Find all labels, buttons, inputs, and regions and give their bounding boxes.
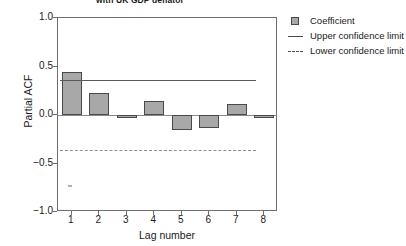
y-tick-1.0: 1.0 (8, 11, 53, 23)
plot-area (57, 17, 277, 211)
legend-item-coefficient: Coefficient (288, 14, 406, 28)
x-tick-label-7: 7 (224, 214, 248, 225)
acf-bar-lag-4 (144, 101, 164, 115)
partial-acf-chart: with UK GDP deflator Partial ACF Lag num… (0, 0, 406, 246)
x-axis-label: Lag number (57, 229, 277, 241)
y-tick-label: 0.0 (13, 108, 53, 119)
y-tick-0.0: 0.0 (8, 108, 53, 120)
y-tick-label: 1.0 (13, 11, 53, 22)
x-tick-label-6: 6 (196, 214, 220, 225)
zero-reference-line (58, 115, 276, 116)
dashed-line-icon (288, 45, 304, 57)
y-tick-label: 0.5 (13, 60, 53, 71)
x-tick-mark (126, 211, 127, 215)
x-tick-label-2: 2 (86, 214, 110, 225)
x-tick-mark (98, 211, 99, 215)
acf-bar-lag-1 (62, 72, 82, 115)
y-tick--0.5: −0.5 (8, 157, 53, 169)
chart-legend: Coefficient Upper confidence limit Lower… (288, 14, 406, 59)
y-tick-mark (53, 211, 57, 212)
acf-bar-lag-2 (89, 93, 109, 115)
x-tick-mark (71, 211, 72, 215)
coefficient-swatch-icon (288, 15, 304, 27)
legend-item-upper-confidence-limit: Upper confidence limit (288, 29, 406, 43)
y-tick-0.5: 0.5 (8, 60, 53, 72)
acf-bar-lag-7 (227, 104, 247, 115)
legend-item-lower-confidence-limit: Lower confidence limit (288, 44, 406, 58)
legend-label-coefficient: Coefficient (310, 15, 355, 27)
x-tick-mark (153, 211, 154, 215)
x-tick-mark (236, 211, 237, 215)
x-tick-label-3: 3 (114, 214, 138, 225)
x-tick-label-4: 4 (141, 214, 165, 225)
acf-bar-lag-3 (117, 115, 137, 118)
plot-inner (58, 18, 276, 210)
legend-label-lower-confidence-limit: Lower confidence limit (310, 45, 404, 57)
upper-confidence-limit-line (60, 80, 256, 81)
y-tick--1.0: −1.0 (8, 205, 53, 217)
x-tick-mark (263, 211, 264, 215)
x-tick-label-5: 5 (169, 214, 193, 225)
legend-label-upper-confidence-limit: Upper confidence limit (310, 30, 404, 42)
chart-title: with UK GDP deflator (0, 0, 280, 4)
acf-bar-lag-6 (199, 115, 219, 128)
lower-confidence-limit-line (60, 150, 256, 151)
x-tick-label-1: 1 (59, 214, 83, 225)
stray-artifact-mark (68, 185, 72, 187)
y-tick-label: −0.5 (13, 157, 53, 168)
x-tick-mark (208, 211, 209, 215)
y-tick-label: −1.0 (13, 205, 53, 216)
acf-bar-lag-8 (254, 115, 274, 118)
x-tick-label-8: 8 (251, 214, 275, 225)
acf-bar-lag-5 (172, 115, 192, 130)
solid-line-icon (288, 30, 304, 42)
x-tick-mark (181, 211, 182, 215)
